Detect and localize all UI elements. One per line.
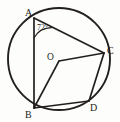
radius-oc <box>59 53 104 61</box>
center-label-o: O <box>47 53 54 63</box>
vertex-label-a: A <box>25 8 32 18</box>
vertex-label-b: B <box>25 110 32 120</box>
radius-ob <box>34 61 59 108</box>
vertex-label-d: D <box>90 103 97 113</box>
circle-outline <box>8 8 110 110</box>
geometry-figure: A B C D O 72° <box>0 0 120 122</box>
vertex-label-c: C <box>107 46 114 56</box>
geometry-canvas <box>0 0 120 122</box>
angle-measure-label: 72° <box>37 24 48 32</box>
